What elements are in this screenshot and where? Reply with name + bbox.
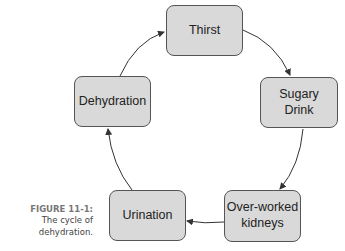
arrow-sugary-drink-to-kidneys: [280, 129, 303, 189]
node-over-worked-kidneys: Over-worked kidneys: [224, 190, 301, 242]
arrow-thirst-to-sugary-drink: [243, 30, 290, 75]
node-sugary-drink: Sugary Drink: [260, 77, 338, 128]
arrow-dehydration-to-thirst: [120, 32, 164, 76]
arrow-urination-to-dehydration: [108, 129, 132, 190]
caption-line-1: The cycle of: [0, 215, 93, 226]
node-dehydration: Dehydration: [74, 76, 151, 127]
figure-caption: FIGURE 11-1: The cycle of dehydration.: [0, 204, 93, 238]
arrow-kidneys-to-urination: [187, 221, 224, 223]
node-urination: Urination: [109, 190, 186, 241]
caption-line-2: dehydration.: [0, 227, 93, 238]
node-thirst: Thirst: [166, 5, 243, 56]
figure-label: FIGURE 11-1:: [0, 204, 93, 215]
